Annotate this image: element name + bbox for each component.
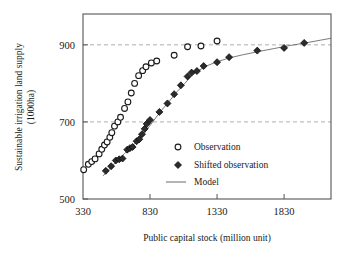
y-tick-label: 700: [59, 117, 75, 128]
data-point-observation: [132, 80, 138, 86]
data-point-shifted-observation: [254, 47, 261, 54]
data-point-shifted-observation: [177, 82, 184, 89]
data-point-shifted-observation: [108, 163, 115, 170]
plot-frame: [83, 14, 331, 199]
y-axis-ticks: 500700900: [59, 40, 88, 205]
data-point-observation: [81, 167, 87, 173]
data-point-observation: [185, 44, 191, 50]
y-axis-title: Sustainable irrigation land supply(1000h…: [14, 43, 37, 171]
y-axis-title-line2: (1000ha): [26, 90, 37, 124]
y-tick-label: 900: [59, 40, 75, 51]
data-point-observation: [118, 114, 124, 120]
legend-marker-observation: [175, 144, 181, 150]
y-tick-label: 500: [59, 194, 75, 205]
data-point-observation: [128, 90, 134, 96]
data-point-shifted-observation: [301, 39, 308, 46]
legend-marker-shifted-observation: [175, 162, 182, 169]
legend: ObservationShifted observationModel: [166, 142, 268, 187]
data-point-shifted-observation: [226, 54, 233, 61]
x-tick-label: 830: [142, 206, 158, 217]
x-axis-ticks: 33083013301830: [75, 194, 294, 217]
data-point-observation: [122, 106, 128, 112]
scatter-plot: 33083013301830500700900Public capital st…: [0, 0, 350, 258]
gridlines: [83, 45, 331, 122]
data-point-shifted-observation: [214, 59, 221, 66]
x-tick-label: 1830: [274, 206, 295, 217]
data-point-observation: [136, 73, 142, 79]
legend-label: Shifted observation: [194, 160, 268, 170]
data-point-observation: [109, 130, 115, 136]
chart-figure: 33083013301830500700900Public capital st…: [0, 0, 350, 258]
data-point-observation: [171, 52, 177, 58]
data-point-shifted-observation: [102, 167, 109, 174]
x-axis-title: Public capital stock (million unit): [143, 233, 271, 244]
data-point-observation: [214, 38, 220, 44]
data-series: [102, 39, 307, 174]
legend-label: Model: [194, 177, 219, 187]
data-point-shifted-observation: [281, 44, 288, 51]
x-tick-label: 1330: [207, 206, 228, 217]
data-point-observation: [198, 43, 204, 49]
data-point-observation: [154, 58, 160, 64]
data-point-observation: [92, 156, 98, 162]
data-point-observation: [125, 99, 131, 105]
legend-label: Observation: [194, 142, 241, 152]
y-axis-title-line1: Sustainable irrigation land supply: [14, 43, 24, 171]
x-tick-label: 330: [75, 206, 91, 217]
data-series: [81, 38, 220, 173]
data-point-observation: [143, 64, 149, 70]
